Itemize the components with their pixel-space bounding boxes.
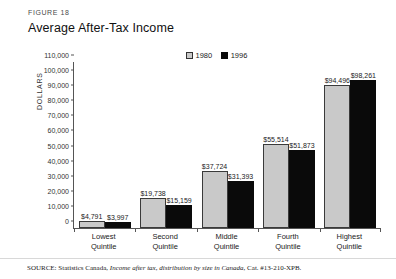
x-axis-category-label: FourthQuintile [257,232,318,251]
x-axis-category-label: LowestQuintile [73,232,134,251]
page-title: Average After-Tax Income [28,21,174,35]
bar-value-label: $15,159 [166,197,191,204]
source-suffix: , Cat. #13-210-XPB. [244,264,302,272]
chart-legend: 1980 1996 [186,51,247,60]
source-divider [0,258,396,259]
y-axis-tick-label: 110,000 [44,52,69,59]
y-axis-tick-label: 90,000 [48,82,69,89]
bar-wrapper: $94,496 [324,85,350,228]
x-axis-category-label: HighestQuintile [319,232,380,251]
y-axis-tick-label: 0 [65,218,69,225]
bar-1980-lowest[interactable] [79,221,105,228]
source-title: Income after tax, distribution by size i… [110,264,244,272]
bar-value-label: $37,724 [202,163,227,170]
bar-wrapper: $55,514 [263,144,289,228]
bar-wrapper: $15,159 [166,205,192,228]
x-axis-category-line: Quintile [134,242,195,252]
y-axis-tick: 0 [65,218,74,225]
y-axis-tick-label: 20,000 [48,187,69,194]
y-axis-tick: 40,000 [48,157,74,164]
bar-value-label: $55,514 [263,136,288,143]
y-axis-tick: 20,000 [48,187,74,194]
y-axis-tick: 80,000 [48,97,74,104]
legend-item-1980: 1980 [186,51,212,60]
chart-plot-area: DOLLARS 110,000100,00090,00080,00070,000… [73,62,381,229]
bar-group: $19,738$15,159 [135,62,196,228]
y-axis-tick-label: 70,000 [48,112,69,119]
bar-value-label: $19,738 [140,190,165,197]
legend-label-1996: 1996 [231,51,248,60]
x-axis-category-line: Highest [319,232,380,242]
y-axis-title: DOLLARS [36,72,43,110]
bar-group: $4,791$3,997 [74,62,135,228]
y-axis-tick: 30,000 [48,172,74,179]
bar-wrapper: $31,393 [228,181,254,228]
bar-1980-fourth[interactable] [263,144,289,228]
bar-value-label: $98,261 [351,72,376,79]
bar-wrapper: $37,724 [202,171,228,228]
y-axis-tick-label: 50,000 [48,142,69,149]
source-prefix: SOURCE: Statistics Canada, [27,264,110,272]
y-axis-tick: 70,000 [48,112,74,119]
x-axis-category-line: Fourth [257,232,318,242]
source-note: SOURCE: Statistics Canada, Income after … [27,264,301,272]
bar-1996-highest[interactable] [350,80,376,228]
y-axis-tick-mark [71,55,74,56]
bar-wrapper: $19,738 [140,198,166,228]
y-axis-tick: 10,000 [48,202,74,209]
x-axis-category-line: Middle [196,232,257,242]
bar-1996-second[interactable] [166,205,192,228]
x-axis-category-line: Quintile [196,242,257,252]
x-axis-tick-mark [380,228,381,232]
y-axis-tick: 90,000 [48,82,74,89]
bar-value-label: $51,873 [289,142,314,149]
legend-swatch-1980 [186,52,193,59]
bar-group: $37,724$31,393 [197,62,258,228]
x-axis-category-line: Lowest [73,232,134,242]
y-axis-tick-label: 30,000 [48,172,69,179]
legend-swatch-1996 [221,52,228,59]
legend-item-1996: 1996 [221,51,247,60]
bar-1996-fourth[interactable] [289,150,315,228]
y-axis-tick-label: 40,000 [48,157,69,164]
bar-wrapper: $51,873 [289,150,315,228]
bar-1980-second[interactable] [140,198,166,228]
y-axis-tick-label: 80,000 [48,97,69,104]
bar-groups: $4,791$3,997$19,738$15,159$37,724$31,393… [74,62,381,228]
bar-group: $55,514$51,873 [258,62,319,228]
y-axis-tick-label: 10,000 [48,202,69,209]
bar-1996-lowest[interactable] [105,222,131,228]
y-axis-tick-label: 60,000 [48,127,69,134]
bar-value-label: $31,393 [228,173,253,180]
bar-wrapper: $3,997 [105,222,131,228]
bar-value-label: $4,791 [81,213,102,220]
x-axis-category-line: Second [134,232,195,242]
y-axis-tick: 60,000 [48,127,74,134]
x-axis-category-label: MiddleQuintile [196,232,257,251]
x-axis-category-label: SecondQuintile [134,232,195,251]
bar-wrapper: $98,261 [350,80,376,228]
y-axis-tick: 50,000 [48,142,74,149]
y-axis-tick-label: 100,000 [44,67,69,74]
bar-1980-highest[interactable] [324,85,350,228]
bar-1996-middle[interactable] [228,181,254,228]
x-axis-category-line: Quintile [257,242,318,252]
x-axis-labels: LowestQuintileSecondQuintileMiddleQuinti… [73,232,380,251]
bar-1980-middle[interactable] [202,171,228,228]
y-axis-tick: 110,000 [44,52,74,59]
bar-wrapper: $4,791 [79,221,105,228]
y-axis-tick: 100,000 [44,67,74,74]
bar-value-label: $3,997 [107,214,128,221]
bar-group: $94,496$98,261 [320,62,381,228]
x-axis-category-line: Quintile [319,242,380,252]
x-axis-category-line: Quintile [73,242,134,252]
figure-label: FIGURE 18 [28,9,70,16]
legend-label-1980: 1980 [196,51,213,60]
bar-value-label: $94,496 [325,77,350,84]
